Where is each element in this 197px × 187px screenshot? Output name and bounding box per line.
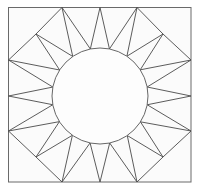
center-circle [52, 48, 148, 144]
sunburst-diagram [0, 0, 197, 187]
